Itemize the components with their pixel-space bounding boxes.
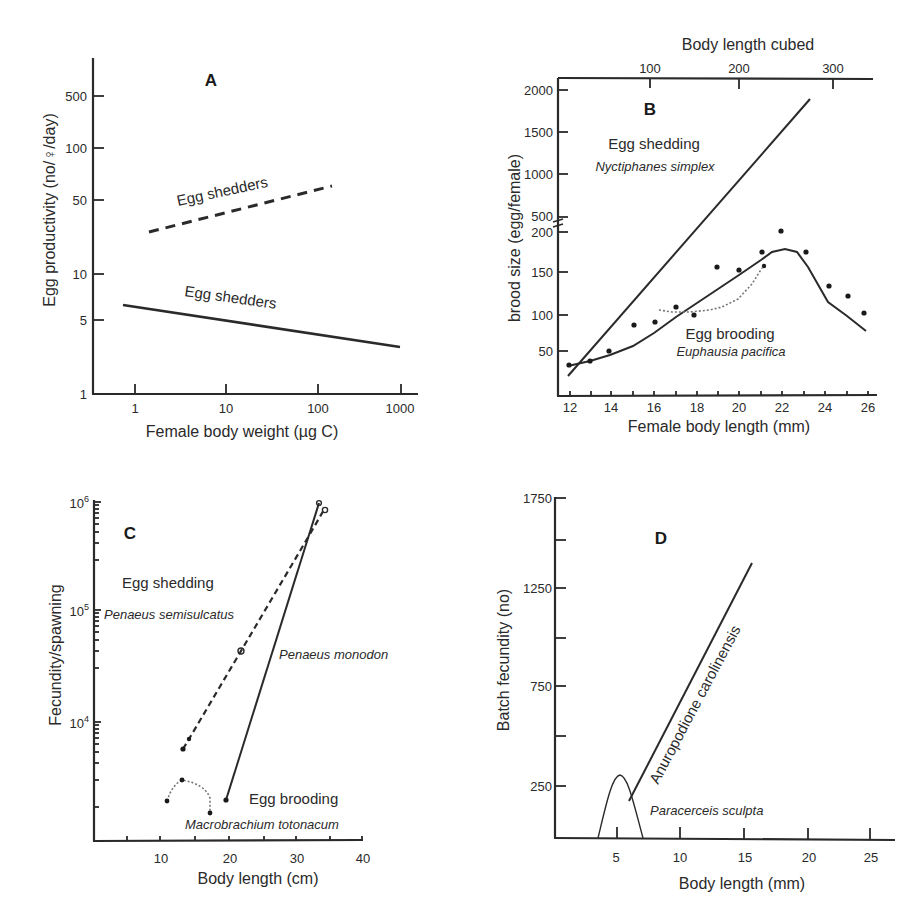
svg-text:14: 14: [604, 400, 618, 415]
panel-d-x-axis: [554, 838, 895, 840]
svg-text:40: 40: [356, 851, 370, 866]
svg-text:10: 10: [219, 401, 233, 416]
svg-text:100: 100: [307, 401, 329, 416]
panel-b-y-ticks: 2000 1500 1000 500 200 150 100 50: [524, 83, 568, 359]
panel-c-species-monodon: Penaeus monodon: [279, 647, 388, 662]
panel-c-y-label: Fecundity/spawning: [47, 584, 64, 725]
panel-d: 1750 1250 750 250 5 10 15 20 25 Body len…: [495, 491, 895, 892]
svg-text:10: 10: [154, 851, 168, 866]
svg-text:500: 500: [65, 89, 87, 104]
panel-a-y-ticks: 500 100 50 10 5 1: [65, 89, 104, 402]
panel-c-ytick-1e6: 106: [70, 494, 89, 511]
panel-c-species-macrobrachium: Macrobrachium totonacum: [185, 817, 339, 832]
panel-d-y-ticks: 1750 1250 750 250: [523, 491, 566, 794]
panel-c-annotation-brooding: Egg brooding: [249, 790, 338, 807]
svg-text:50: 50: [73, 193, 87, 208]
svg-text:1000: 1000: [524, 167, 553, 182]
panel-a-x-label: Female body weight (µg C): [146, 423, 338, 440]
panel-b-top-axis: [558, 78, 873, 79]
panel-a-x-ticks: 1 10 100 1000: [131, 384, 414, 416]
svg-text:1000: 1000: [386, 401, 415, 416]
panel-a-title: A: [205, 71, 217, 90]
panel-b-annotation-shedding: Egg shedding: [608, 135, 700, 152]
svg-text:1250: 1250: [523, 581, 552, 596]
panel-b-x2-label: Body length cubed: [682, 36, 815, 53]
panel-a: 500 100 50 10 5 1 1 10 100 1000 Female b…: [41, 58, 418, 440]
panel-b-x-axis: [557, 395, 877, 396]
panel-b-x-label: Female body length (mm): [628, 418, 810, 435]
svg-text:1: 1: [80, 387, 87, 402]
svg-text:1: 1: [131, 401, 138, 416]
svg-text:250: 250: [530, 779, 552, 794]
panel-d-x-label: Body length (mm): [679, 875, 805, 892]
figure-canvas: 500 100 50 10 5 1 1 10 100 1000 Female b…: [0, 0, 921, 917]
svg-text:200: 200: [531, 225, 553, 240]
panel-b-top-ticks: 100 200 300: [639, 61, 844, 89]
svg-text:15: 15: [738, 850, 752, 865]
panel-b-title: B: [644, 100, 656, 119]
svg-text:20: 20: [732, 400, 746, 415]
panel-c-x-axis: [93, 840, 363, 841]
panel-c-annotation-shedding: Egg shedding: [122, 574, 214, 591]
panel-c-ytick-1e5: 105: [70, 602, 89, 619]
panel-b-y-label: brood size (egg/female): [506, 154, 523, 322]
svg-text:50: 50: [539, 344, 553, 359]
panel-a-annotation-solid: Egg shedders: [184, 282, 278, 312]
svg-text:16: 16: [647, 400, 661, 415]
svg-text:30: 30: [290, 851, 304, 866]
svg-text:5: 5: [80, 313, 87, 328]
panel-d-species-paracerceis: Paracerceis sculpta: [650, 803, 763, 818]
svg-text:200: 200: [728, 61, 750, 76]
panel-d-title: D: [655, 529, 667, 548]
panel-c-macrobrachium-curve: [167, 780, 210, 812]
panel-c-ytick-1e4: 104: [70, 714, 89, 731]
panel-d-paracerceis-curve: [598, 775, 643, 838]
svg-text:100: 100: [639, 61, 661, 76]
panel-c-title: C: [124, 524, 136, 543]
svg-text:1500: 1500: [524, 125, 553, 140]
panel-b-species-nyctiphanes: Nyctiphanes simplex: [595, 159, 715, 174]
panel-c-y-ticks: 106 105 104: [70, 494, 101, 807]
svg-text:300: 300: [822, 61, 844, 76]
panel-c-species-semisulcatus: Penaeus semisulcatus: [104, 607, 235, 622]
svg-text:2000: 2000: [524, 83, 553, 98]
panel-d-species-anuropodione: Anuropodione carolinensis: [646, 622, 744, 786]
panel-b-annotation-brooding: Egg brooding: [685, 325, 774, 342]
svg-text:750: 750: [530, 679, 552, 694]
panel-d-anuropodione-line: [629, 563, 752, 801]
svg-text:100: 100: [65, 141, 87, 156]
svg-text:20: 20: [223, 851, 237, 866]
panel-d-y-label: Batch fecundity (no): [495, 589, 512, 731]
panel-c-x-label: Body length (cm): [198, 870, 319, 887]
svg-text:10: 10: [73, 267, 87, 282]
panel-c: 106 105 104 10 20 30 40 Body length (cm)…: [47, 494, 388, 887]
svg-text:22: 22: [775, 400, 789, 415]
panel-b: Body length cubed 100 200 300 2000 1500: [506, 36, 877, 435]
svg-text:500: 500: [531, 209, 553, 224]
svg-text:24: 24: [818, 400, 832, 415]
svg-text:12: 12: [563, 400, 577, 415]
panel-a-solid-line: [123, 305, 400, 347]
svg-text:1750: 1750: [523, 491, 552, 506]
panel-a-annotation-dashed: Egg shedders: [175, 173, 269, 209]
svg-text:26: 26: [861, 400, 875, 415]
panel-d-x-ticks: 5 10 15 20 25: [612, 827, 878, 865]
svg-text:100: 100: [531, 308, 553, 323]
panel-a-y-label: Egg productivity (no/♀/day): [41, 113, 58, 306]
svg-text:20: 20: [802, 850, 816, 865]
svg-text:5: 5: [612, 850, 619, 865]
panel-b-species-euphausia: Euphausia pacifica: [676, 344, 785, 359]
svg-text:18: 18: [690, 400, 704, 415]
svg-text:25: 25: [864, 850, 878, 865]
svg-text:10: 10: [673, 850, 687, 865]
svg-text:150: 150: [531, 265, 553, 280]
